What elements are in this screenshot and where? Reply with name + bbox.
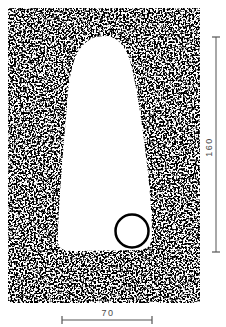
width-dimension: 70: [62, 308, 152, 324]
height-dimension-label: 160: [204, 137, 214, 157]
technical-diagram: 160 70: [0, 0, 226, 327]
diagram-canvas: 160 70: [0, 0, 226, 327]
width-dimension-label: 70: [101, 308, 114, 318]
height-dimension: 160: [204, 37, 220, 252]
hole-circle: [116, 215, 149, 248]
